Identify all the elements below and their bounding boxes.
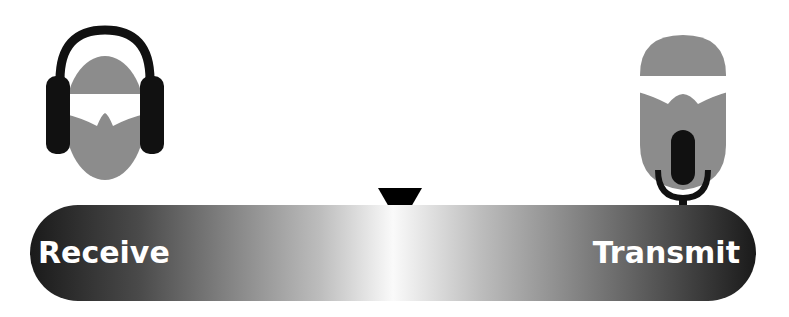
transmit-label: Transmit [593,235,740,270]
person-with-microphone-icon [628,30,738,210]
receive-label: Receive [38,235,170,270]
receive-transmit-slider[interactable]: Receive Transmit [30,205,756,301]
person-with-headphones-icon [38,18,173,183]
